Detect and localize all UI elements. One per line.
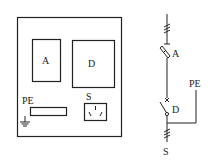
fuse-label: A [172, 48, 180, 59]
schematic-pe-label: PE [189, 78, 201, 89]
schematic-socket-label: S [163, 146, 169, 157]
socket-label: S [86, 91, 92, 102]
pe-label: PE [22, 95, 34, 106]
socket-pins-icon [89, 106, 102, 116]
switch-icon [160, 98, 169, 116]
switch-label: D [172, 104, 179, 115]
distribution-panel [18, 18, 122, 137]
pe-terminal-bar [31, 108, 67, 116]
ground-icon [20, 116, 30, 126]
fuse-icon [160, 46, 170, 58]
d-box-label: D [88, 58, 95, 69]
conductor-ticks-icon [164, 24, 170, 33]
wiring-diagram: A D PE S [0, 0, 216, 162]
a-box-label: A [42, 55, 50, 66]
